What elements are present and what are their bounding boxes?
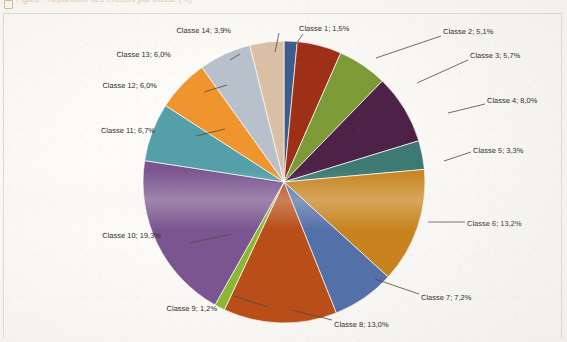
label-leader-line — [448, 104, 485, 113]
pie-slice-label: Classe 3; 5,7% — [470, 52, 520, 59]
pie-slice-label: Classe 11; 6,7% — [0, 127, 155, 134]
pie-slice-label: Classe 2; 5,1% — [443, 28, 493, 35]
pie-slice-label: Classe 10; 19,3% — [0, 232, 161, 239]
pie-slice-label: Classe 1; 1,5% — [299, 25, 349, 32]
pie-slice-label: Classe 8; 13,0% — [334, 321, 389, 328]
pie-slice-label: Classe 12; 6,0% — [0, 82, 157, 89]
pie-slice-label: Classe 9; 1,2% — [0, 305, 217, 312]
label-leader-line — [444, 152, 471, 161]
pie-slice-label: Classe 14; 3,9% — [0, 27, 231, 34]
label-leader-line — [376, 36, 441, 58]
pie-slice-label: Classe 4; 8,0% — [487, 97, 537, 104]
label-leader-line — [417, 60, 468, 83]
pie-slice-label: Classe 13; 6,0% — [0, 51, 171, 58]
label-leader-line — [375, 279, 419, 294]
chart-page: Figure : Répartition des effectifs par c… — [0, 0, 567, 342]
pie-slice-label: Classe 6; 13,2% — [467, 220, 522, 227]
pie-slices-group — [143, 41, 425, 323]
pie-slice-label: Classe 5; 3,3% — [473, 147, 523, 154]
pie-slice-label: Classe 7; 7,2% — [421, 294, 471, 301]
